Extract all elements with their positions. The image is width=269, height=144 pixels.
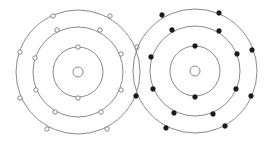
filled-electron — [134, 94, 139, 99]
filled-electron — [193, 95, 198, 100]
filled-electron — [164, 126, 169, 131]
hollow-electron — [34, 88, 38, 92]
right-atom — [133, 9, 257, 133]
filled-electron — [193, 44, 198, 49]
filled-electron — [223, 124, 228, 129]
hollow-electron — [33, 56, 37, 60]
filled-electron — [172, 111, 177, 116]
hollow-electron — [108, 14, 112, 18]
hollow-electron — [53, 110, 57, 114]
nucleus — [190, 66, 200, 76]
filled-electron — [235, 52, 240, 57]
hollow-electron — [99, 110, 103, 114]
hollow-electron — [18, 96, 22, 100]
hollow-electron — [76, 96, 80, 100]
left-atom — [16, 10, 140, 134]
hollow-electron — [18, 50, 22, 54]
hollow-electron — [119, 88, 123, 92]
filled-electron — [149, 55, 154, 60]
bohr-diagram — [0, 0, 269, 144]
filled-electron — [234, 87, 239, 92]
filled-electron — [249, 94, 254, 99]
filled-electron — [217, 11, 222, 16]
hollow-electron — [45, 127, 49, 131]
filled-electron — [217, 29, 222, 34]
filled-electron — [151, 87, 156, 92]
filled-electron — [170, 28, 175, 33]
hollow-electron — [119, 52, 123, 56]
nucleus — [73, 67, 83, 77]
hollow-electron — [76, 45, 80, 49]
hollow-electron — [51, 14, 55, 18]
filled-electron — [250, 48, 255, 53]
hollow-electron — [105, 127, 109, 131]
hollow-electron — [98, 28, 102, 32]
hollow-electron — [55, 28, 59, 32]
filled-electron — [211, 112, 216, 117]
filled-electron — [160, 13, 165, 18]
